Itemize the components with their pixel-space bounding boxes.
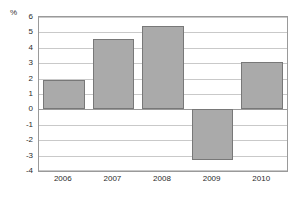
y-axis-tick-label: -4 bbox=[26, 166, 33, 175]
x-axis-tick-label: 2008 bbox=[153, 174, 171, 184]
y-axis-tick-label: -1 bbox=[26, 119, 33, 128]
x-axis-ticks: 20062007200820092010 bbox=[38, 174, 288, 192]
bar bbox=[241, 62, 283, 110]
x-axis-tick-label: 2009 bbox=[203, 174, 221, 184]
y-axis-tick-label: 0 bbox=[29, 104, 33, 113]
bar bbox=[43, 80, 85, 109]
bar bbox=[192, 109, 234, 160]
x-axis-tick-label: 2006 bbox=[54, 174, 72, 184]
x-axis-tick-label: 2007 bbox=[103, 174, 121, 184]
y-axis-tick-label: 6 bbox=[29, 12, 33, 21]
y-axis-tick-label: 5 bbox=[29, 27, 33, 36]
y-axis-tick-label: 2 bbox=[29, 73, 33, 82]
gridline bbox=[39, 125, 287, 126]
x-axis-tick-label: 2010 bbox=[252, 174, 270, 184]
gridline bbox=[39, 17, 287, 18]
y-axis-unit-label: % bbox=[10, 8, 17, 18]
plot-area bbox=[38, 16, 288, 172]
y-axis-tick-label: -2 bbox=[26, 135, 33, 144]
gridline bbox=[39, 156, 287, 157]
y-axis-tick-label: 3 bbox=[29, 58, 33, 67]
gridline bbox=[39, 170, 287, 171]
y-axis-tick-label: 1 bbox=[29, 89, 33, 98]
y-axis-tick-label: 4 bbox=[29, 42, 33, 51]
bar bbox=[93, 39, 135, 110]
y-axis-tick-label: -3 bbox=[26, 150, 33, 159]
gridline bbox=[39, 140, 287, 141]
zero-gridline bbox=[39, 109, 287, 110]
bar-chart: % 6543210-1-2-3-4 20062007200820092010 bbox=[0, 0, 305, 197]
bar bbox=[142, 26, 184, 109]
